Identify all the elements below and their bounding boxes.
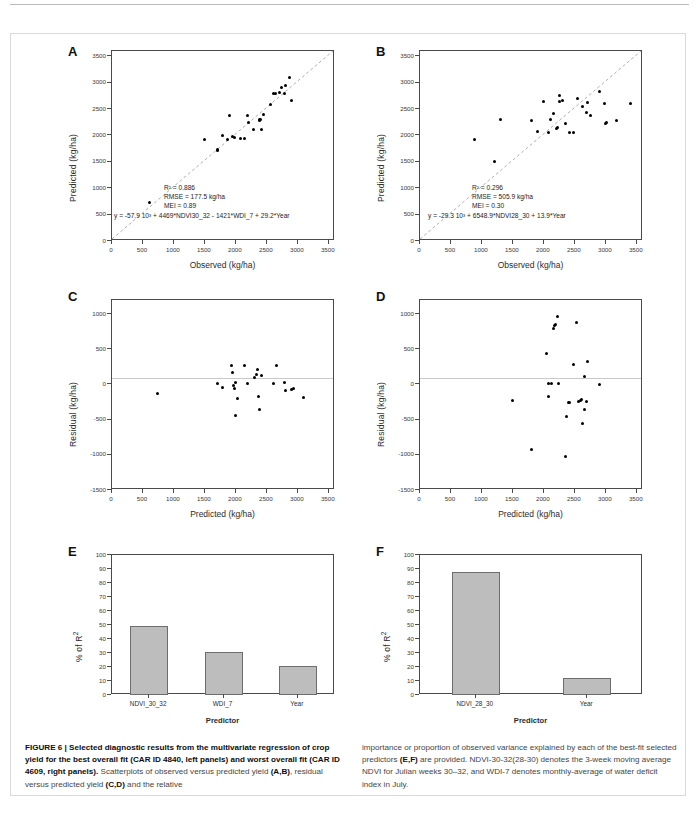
panel-d-xlabel: Predicted (kg/ha) xyxy=(419,509,642,519)
y-tick-label: 40 xyxy=(389,635,414,642)
y-tick-mark xyxy=(107,108,111,109)
data-point xyxy=(581,422,584,425)
y-tick-mark xyxy=(107,82,111,83)
y-tick-mark xyxy=(107,638,111,639)
y-tick-label: 90 xyxy=(81,565,106,572)
y-tick-label: 3000 xyxy=(81,78,106,85)
x-tick-mark xyxy=(574,489,575,493)
x-tick-mark xyxy=(636,489,637,493)
data-point xyxy=(148,201,151,204)
x-tick-mark xyxy=(266,240,267,244)
x-tick-mark xyxy=(297,694,298,698)
panel-c-xlabel: Predicted (kg/ha) xyxy=(111,509,334,519)
x-tick-label: 2000 xyxy=(528,495,558,502)
y-tick-mark xyxy=(107,554,111,555)
x-tick-label: 1500 xyxy=(189,246,219,253)
panel-d-zero-line xyxy=(420,378,641,379)
x-tick-label: 3500 xyxy=(313,246,343,253)
panel-e: E % of R2 0102030405060708090100 NDVI_30… xyxy=(56,544,346,734)
x-tick-label: 3000 xyxy=(282,495,312,502)
data-point xyxy=(234,414,237,417)
x-tick-label: 500 xyxy=(435,246,465,253)
y-tick-label: 10 xyxy=(389,677,414,684)
data-point xyxy=(255,373,258,376)
x-tick-mark xyxy=(235,240,236,244)
y-tick-label: 60 xyxy=(81,607,106,614)
y-tick-label: 0 xyxy=(389,691,414,698)
y-tick-label: 3500 xyxy=(389,52,414,59)
y-tick-label: 1000 xyxy=(81,310,106,317)
x-tick-mark xyxy=(173,489,174,493)
x-tick-mark xyxy=(111,489,112,493)
x-tick-mark xyxy=(481,240,482,244)
y-tick-label: 1000 xyxy=(389,310,414,317)
data-point xyxy=(550,382,553,385)
y-tick-label: 500 xyxy=(389,345,414,352)
y-tick-mark xyxy=(415,666,419,667)
x-tick-mark xyxy=(450,489,451,493)
x-tick-label: 3000 xyxy=(282,246,312,253)
y-tick-label: 80 xyxy=(389,579,414,586)
y-tick-label: 30 xyxy=(389,649,414,656)
x-tick-mark xyxy=(173,240,174,244)
y-tick-label: 1000 xyxy=(81,184,106,191)
y-tick-label: -500 xyxy=(389,415,414,422)
y-tick-label: 500 xyxy=(389,210,414,217)
x-tick-mark xyxy=(142,240,143,244)
y-tick-label: 0 xyxy=(389,380,414,387)
y-tick-mark xyxy=(415,214,419,215)
y-tick-mark xyxy=(107,624,111,625)
y-tick-mark xyxy=(415,554,419,555)
x-tick-mark xyxy=(512,240,513,244)
category-label: Year xyxy=(252,700,342,707)
bar xyxy=(563,678,611,695)
data-point xyxy=(234,381,237,384)
x-tick-label: 500 xyxy=(127,495,157,502)
y-tick-mark xyxy=(107,582,111,583)
x-tick-label: 3000 xyxy=(590,246,620,253)
caption-ref-cd: (C,D) xyxy=(106,780,125,789)
panel-f-letter: F xyxy=(376,544,384,559)
x-tick-mark xyxy=(419,489,420,493)
y-tick-mark xyxy=(107,610,111,611)
x-tick-label: 2000 xyxy=(220,246,250,253)
bar xyxy=(205,652,243,695)
y-tick-label: 10 xyxy=(81,677,106,684)
data-point xyxy=(288,76,291,79)
data-point xyxy=(547,395,550,398)
panel-a-annotation: R² = 0.886 RMSE = 177.5 kg/ha MEI = 0.89… xyxy=(164,183,290,220)
x-tick-label: 0 xyxy=(96,495,126,502)
panel-b-xlabel: Observed (kg/ha) xyxy=(419,260,642,270)
y-tick-label: 2500 xyxy=(81,105,106,112)
x-tick-label: 2000 xyxy=(220,495,250,502)
x-tick-mark xyxy=(204,489,205,493)
panel-a: A Predicted (kg/ha) R² = 0.886 RMSE = 17… xyxy=(56,42,346,277)
data-point xyxy=(568,401,571,404)
y-tick-label: 40 xyxy=(81,635,106,642)
y-tick-label: 50 xyxy=(389,621,414,628)
data-point xyxy=(585,400,588,403)
y-tick-mark xyxy=(415,55,419,56)
y-tick-mark xyxy=(107,187,111,188)
data-point xyxy=(583,408,586,411)
y-tick-mark xyxy=(415,652,419,653)
data-point xyxy=(552,327,555,330)
panel-f: F % of R2 0102030405060708090100 NDVI_28… xyxy=(364,544,654,734)
data-point xyxy=(262,113,265,116)
panel-f-plot-area xyxy=(419,554,642,694)
data-point xyxy=(565,415,568,418)
x-tick-label: 3500 xyxy=(621,246,651,253)
y-tick-label: 2000 xyxy=(81,131,106,138)
y-tick-mark xyxy=(415,596,419,597)
data-point xyxy=(221,386,224,389)
data-point xyxy=(598,383,601,386)
data-point xyxy=(253,376,256,379)
x-tick-label: 3000 xyxy=(590,495,620,502)
x-tick-mark xyxy=(297,489,298,493)
x-tick-label: 1000 xyxy=(158,495,188,502)
data-point xyxy=(233,136,236,139)
panel-c: C Residual (kg/ha) 10005000-500-1000-150… xyxy=(56,289,346,534)
data-point xyxy=(272,382,275,385)
data-point xyxy=(576,97,579,100)
data-point xyxy=(603,102,606,105)
